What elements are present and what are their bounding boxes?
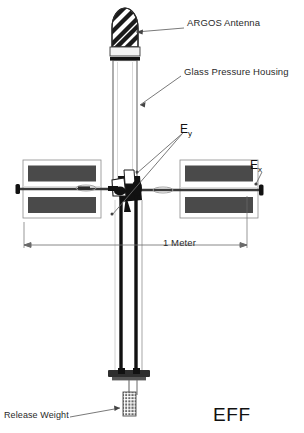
base-plate [108, 368, 150, 395]
label-plate-identifier: EFF [213, 404, 251, 426]
label-release-weight: Release Weight [4, 411, 69, 420]
antenna-collar [110, 47, 140, 61]
label-scale-dimension: 1 Meter [163, 238, 196, 248]
buoy-schematic [0, 0, 304, 433]
efield-y-base: E [180, 122, 188, 136]
label-efield-y: Ey [180, 122, 192, 136]
leader-lines [70, 28, 262, 417]
diagram-canvas: ARGOS Antenna Glass Pressure Housing Rel… [0, 0, 304, 433]
leader-glass [140, 76, 181, 105]
leader-release-weight [70, 408, 120, 417]
efield-x-base: E [250, 158, 258, 172]
label-argos-antenna: ARGOS Antenna [187, 18, 260, 28]
electrode-tip-left [16, 184, 21, 194]
label-efield-x: Ex [250, 158, 262, 172]
lower-mast-rods [115, 196, 142, 372]
glass-pressure-housing [113, 61, 137, 183]
efield-y-subscript: y [188, 129, 192, 138]
label-glass-pressure-housing: Glass Pressure Housing [184, 67, 289, 77]
efield-x-subscript: x [258, 165, 262, 174]
release-weight [123, 392, 136, 416]
leader-ey-upper [136, 132, 184, 174]
electrode-tip-right [259, 185, 264, 196]
leader-argos [136, 28, 184, 32]
